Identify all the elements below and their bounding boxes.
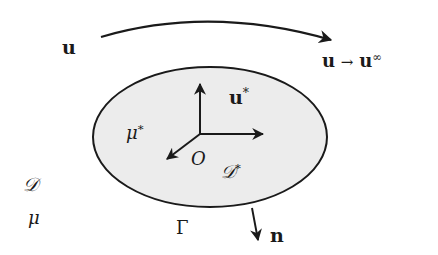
label-u-star-base: u — [229, 86, 243, 108]
label-u-limit-sup: ∞ — [372, 50, 382, 64]
label-normal: n — [270, 226, 284, 245]
label-u-star: u* — [229, 88, 249, 107]
label-mu-star: μ* — [126, 124, 144, 142]
label-mu-outer: μ — [28, 209, 40, 227]
label-u-limit-arrow: → — [341, 53, 354, 71]
label-u-star-sup: * — [243, 86, 249, 100]
label-u-limit: u → u∞ — [322, 52, 382, 70]
label-u-limit-lhs: u — [322, 50, 335, 71]
label-mu-star-base: μ — [126, 122, 138, 143]
normal-arrow — [252, 208, 258, 240]
label-origin: O — [191, 150, 206, 168]
flow-arrow — [101, 22, 331, 40]
label-D-star: 𝒟* — [221, 163, 241, 181]
label-D-star-base: 𝒟 — [221, 161, 235, 182]
label-u-far: u — [62, 38, 76, 57]
label-D-star-sup: * — [235, 161, 241, 175]
label-gamma: Γ — [176, 219, 189, 237]
label-u-limit-rhs: u — [359, 50, 372, 71]
label-D-outer: 𝒟 — [23, 175, 38, 194]
label-mu-star-sup: * — [138, 122, 144, 136]
